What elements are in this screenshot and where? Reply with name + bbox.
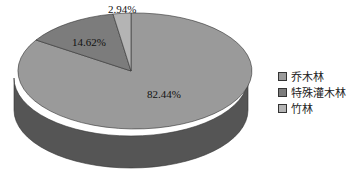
pie-chart: 2.94% 14.62% 82.44% 乔木林 特殊灌木林 竹林 [0,0,349,181]
legend-swatch [278,88,287,97]
legend-item-bamboo: 竹林 [278,100,346,116]
legend: 乔木林 特殊灌木林 竹林 [278,68,346,116]
label-special-shrub: 14.62% [72,36,106,48]
legend-swatch [278,72,287,81]
legend-swatch [278,104,287,113]
legend-item-arbor: 乔木林 [278,68,346,84]
legend-item-special-shrub: 特殊灌木林 [278,84,346,100]
label-arbor: 82.44% [147,88,181,100]
label-bamboo: 2.94% [108,3,136,15]
